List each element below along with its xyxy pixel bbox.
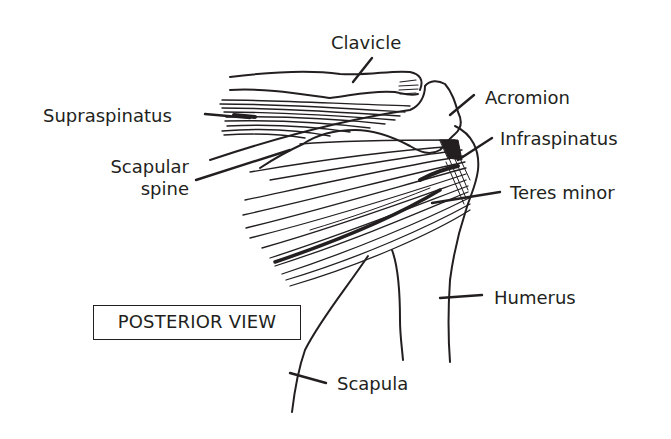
anatomy-diagram: Clavicle Supraspinatus Acromion Infraspi…: [0, 0, 671, 439]
humerus-leader-line: [440, 295, 482, 298]
label-scapula: Scapula: [337, 373, 408, 395]
label-acromion: Acromion: [485, 87, 570, 109]
label-humerus: Humerus: [494, 287, 576, 309]
scapular-spine-leader-line: [196, 150, 290, 180]
infraspinatus-shape: [243, 140, 470, 286]
label-scapular-spine: Scapular spine: [96, 156, 189, 200]
label-supraspinatus: Supraspinatus: [43, 105, 172, 127]
teres-minor-leader-line: [432, 192, 500, 203]
clavicle-shape: [230, 72, 422, 98]
infraspinatus-leader-line: [458, 138, 492, 160]
scapula-leader-line: [290, 373, 326, 383]
shoulder-illustration: [0, 0, 671, 439]
humerus-shape: [449, 126, 479, 362]
label-infraspinatus: Infraspinatus: [500, 128, 618, 150]
view-label-box: POSTERIOR VIEW: [93, 305, 301, 340]
clavicle-leader-line: [353, 58, 372, 82]
label-clavicle: Clavicle: [331, 32, 401, 54]
label-scapular-spine-line2: spine: [96, 178, 189, 200]
label-teres-minor: Teres minor: [510, 182, 615, 204]
label-scapular-spine-line1: Scapular: [96, 156, 189, 178]
